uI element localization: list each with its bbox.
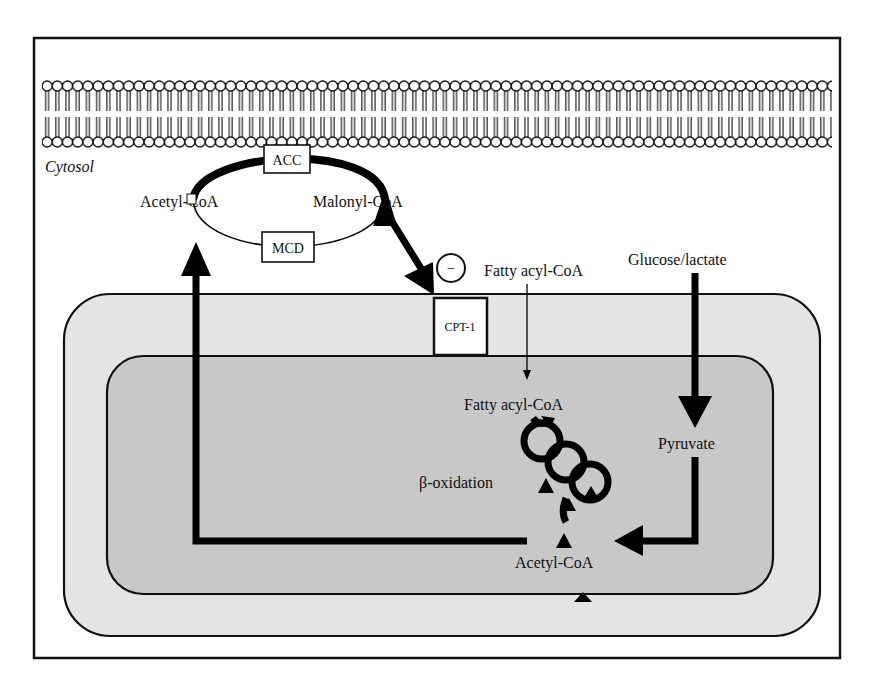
svg-text:−: − [447, 261, 455, 276]
beta-oxidation-label: β-oxidation [419, 474, 493, 492]
mcd-enzyme-box: MCD [262, 232, 314, 262]
svg-text:ACC: ACC [273, 153, 302, 168]
svg-text:MCD: MCD [272, 241, 304, 256]
pyruvate-label: Pyruvate [658, 435, 715, 453]
svg-text:CPT-1: CPT-1 [445, 320, 476, 334]
glucose-lactate-label: Glucose/lactate [628, 251, 727, 268]
pathway-diagram: Cytosol ACC MCD Acetyl-CoA Malonyl-CoA −… [0, 0, 871, 693]
plasma-membrane-bilayer [42, 78, 832, 150]
fatty-acyl-coa-cytosol-label: Fatty acyl-CoA [484, 262, 584, 280]
acetyl-coa-node [187, 194, 196, 204]
acc-enzyme-box: ACC [264, 145, 310, 173]
acetyl-coa-matrix-label: Acetyl-CoA [515, 554, 594, 572]
cpt1-enzyme-box: CPT-1 [434, 298, 487, 355]
fatty-acyl-coa-matrix-label: Fatty acyl-CoA [464, 396, 564, 414]
cytosol-label: Cytosol [45, 158, 94, 176]
malonyl-coa-label: Malonyl-CoA [313, 193, 403, 211]
inhibition-minus-icon: − [437, 254, 465, 282]
acetyl-coa-cytosol-label: Acetyl-CoA [140, 193, 219, 211]
